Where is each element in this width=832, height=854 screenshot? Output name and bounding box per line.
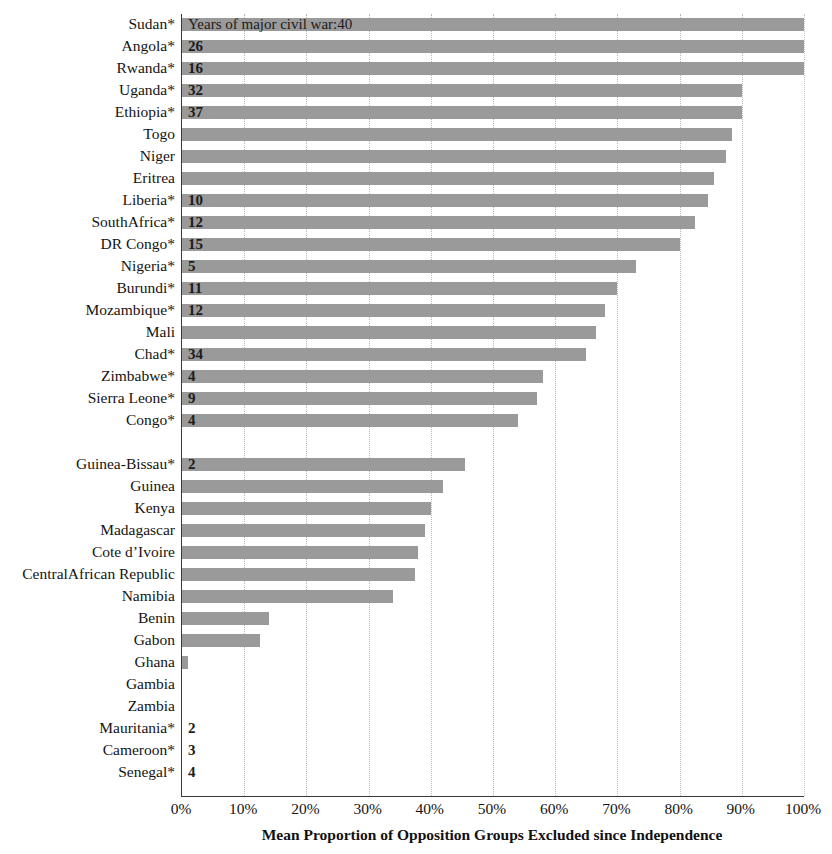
category-label: Uganda* xyxy=(119,80,182,102)
bar xyxy=(182,304,605,317)
category-label: SouthAfrica* xyxy=(91,212,182,234)
bar xyxy=(182,634,260,647)
category-label: Nigeria* xyxy=(121,256,182,278)
bar-row: Namibia xyxy=(182,586,804,608)
category-label: Cameroon* xyxy=(103,740,182,762)
bar xyxy=(182,348,586,361)
category-label: Zimbabwe* xyxy=(101,366,182,388)
category-label: Liberia* xyxy=(122,190,182,212)
category-label: Sierra Leone* xyxy=(88,388,182,410)
bar-row: Congo*4 xyxy=(182,410,804,432)
bar xyxy=(182,106,742,119)
bar xyxy=(182,502,431,515)
bar-row: Burundi*11 xyxy=(182,278,804,300)
x-tick-90%: 90% xyxy=(711,800,771,818)
war-years-value: 2 xyxy=(188,454,196,476)
bar-row: Guinea xyxy=(182,476,804,498)
x-tick-40%: 40% xyxy=(400,800,460,818)
bar-row: Mozambique*12 xyxy=(182,300,804,322)
war-years-value: 26 xyxy=(188,36,203,58)
category-label: Chad* xyxy=(135,344,182,366)
bar xyxy=(182,194,708,207)
category-label: DR Congo* xyxy=(101,234,183,256)
bar-row: Mali xyxy=(182,322,804,344)
bar-row: Mauritania*2 xyxy=(182,718,804,740)
bar-row: Liberia*10 xyxy=(182,190,804,212)
category-label: Guinea-Bissau* xyxy=(76,454,182,476)
war-years-value: 16 xyxy=(188,58,203,80)
category-label: Ethiopia* xyxy=(115,102,182,124)
bar xyxy=(182,392,537,405)
war-years-value: 12 xyxy=(188,300,203,322)
bar xyxy=(182,568,415,581)
war-years-value: 37 xyxy=(188,102,203,124)
category-label: Ghana xyxy=(135,652,182,674)
bar-row: Ethiopia*37 xyxy=(182,102,804,124)
war-years-value: 5 xyxy=(188,256,196,278)
war-years-value: 4 xyxy=(188,762,196,784)
war-years-value: 34 xyxy=(188,344,203,366)
bar xyxy=(182,40,804,53)
x-tick-10%: 10% xyxy=(213,800,273,818)
category-label: Senegal* xyxy=(118,762,182,784)
bar xyxy=(182,128,732,141)
x-tick-30%: 30% xyxy=(338,800,398,818)
category-label: Mozambique* xyxy=(85,300,182,322)
bar-row: Cameroon*3 xyxy=(182,740,804,762)
bar-row: SouthAfrica*12 xyxy=(182,212,804,234)
bar-row: Nigeria*5 xyxy=(182,256,804,278)
x-tick-70%: 70% xyxy=(586,800,646,818)
bar xyxy=(182,458,465,471)
category-label: Togo xyxy=(143,124,182,146)
war-years-value: 3 xyxy=(188,740,196,762)
bar-row: Senegal*4 xyxy=(182,762,804,784)
bar xyxy=(182,612,269,625)
category-label: Guinea xyxy=(130,476,182,498)
bar-row: Sudan*Years of major civil war:40 xyxy=(182,14,804,36)
category-label: Gambia xyxy=(126,674,182,696)
bar-row: Rwanda*16 xyxy=(182,58,804,80)
category-label: Sudan* xyxy=(129,14,183,36)
war-years-value: 4 xyxy=(188,366,196,388)
bar-row: Guinea-Bissau*2 xyxy=(182,454,804,476)
gridline-100% xyxy=(804,14,806,796)
bar-row: Benin xyxy=(182,608,804,630)
bar-row: Togo xyxy=(182,124,804,146)
category-label: Rwanda* xyxy=(116,58,182,80)
war-years-annotation: Years of major civil war:40 xyxy=(188,14,352,36)
category-label: CentralAfrican Republic xyxy=(22,564,182,586)
war-years-value: 9 xyxy=(188,388,196,410)
category-label: Burundi* xyxy=(116,278,182,300)
bar-row: Ghana xyxy=(182,652,804,674)
bar xyxy=(182,414,518,427)
bar xyxy=(182,656,188,669)
category-label: Eritrea xyxy=(133,168,182,190)
bar-chart: Sudan*Years of major civil war:40Angola*… xyxy=(0,0,832,854)
category-label: Kenya xyxy=(135,498,182,520)
war-years-value: 2 xyxy=(188,718,196,740)
bar xyxy=(182,216,695,229)
x-tick-80%: 80% xyxy=(649,800,709,818)
bar-row: DR Congo*15 xyxy=(182,234,804,256)
category-label: Namibia xyxy=(122,586,182,608)
bar-row: Angola*26 xyxy=(182,36,804,58)
war-years-value: 12 xyxy=(188,212,203,234)
bar-row: Sierra Leone*9 xyxy=(182,388,804,410)
bar-row: Madagascar xyxy=(182,520,804,542)
bar-row-spacer xyxy=(182,432,804,454)
category-label: Madagascar xyxy=(100,520,182,542)
bar xyxy=(182,370,543,383)
war-years-value: 15 xyxy=(188,234,203,256)
bar-row: Zimbabwe*4 xyxy=(182,366,804,388)
x-tick-0%: 0% xyxy=(151,800,211,818)
category-label: Mali xyxy=(146,322,182,344)
x-tick-100%: 100% xyxy=(773,800,832,818)
bar-row: Gabon xyxy=(182,630,804,652)
bar-row: Eritrea xyxy=(182,168,804,190)
bar xyxy=(182,172,714,185)
x-tick-60%: 60% xyxy=(524,800,584,818)
war-years-value: 10 xyxy=(188,190,203,212)
war-years-value: 4 xyxy=(188,410,196,432)
category-label: Niger xyxy=(140,146,182,168)
bar-row: Kenya xyxy=(182,498,804,520)
